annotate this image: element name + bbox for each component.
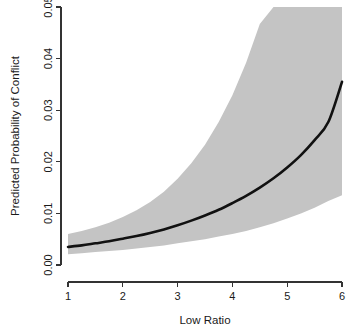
y-axis-tick-labels: 0.000.010.020.030.040.05 [42, 0, 54, 276]
x-axis-tick-labels: 123456 [65, 290, 345, 302]
x-axis-title: Low Ratio [179, 314, 230, 326]
y-axis-title: Predicted Probability of Conflict [9, 55, 21, 216]
y-axis [56, 7, 61, 265]
y-axis-tick-label: 0.00 [42, 254, 54, 275]
x-axis-tick-label: 6 [339, 290, 345, 302]
x-axis-tick-label: 2 [120, 290, 126, 302]
y-axis-tick-label: 0.05 [42, 0, 54, 18]
x-axis-tick-label: 1 [65, 290, 71, 302]
confidence-interval-band [68, 7, 342, 254]
chart-figure: 0.000.010.020.030.040.05 123456 Predicte… [0, 0, 354, 334]
x-axis [68, 282, 342, 287]
y-axis-tick-label: 0.02 [42, 151, 54, 172]
y-axis-tick-label: 0.04 [42, 48, 54, 69]
y-axis-tick-label: 0.01 [42, 203, 54, 224]
y-axis-tick-label: 0.03 [42, 99, 54, 120]
x-axis-tick-label: 5 [284, 290, 290, 302]
x-axis-tick-label: 3 [175, 290, 181, 302]
x-axis-tick-label: 4 [229, 290, 235, 302]
chart-plot-svg: 0.000.010.020.030.040.05 123456 Predicte… [0, 0, 354, 334]
